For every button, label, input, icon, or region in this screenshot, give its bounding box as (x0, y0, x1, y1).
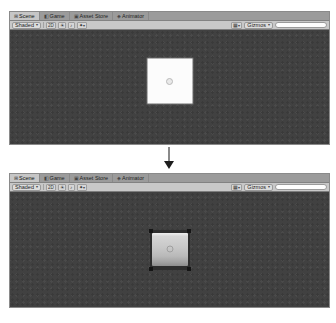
scene-search-input[interactable] (275, 184, 327, 190)
audio-icon: ♪ (70, 185, 72, 190)
lighting-toggle-button[interactable]: ☀ (58, 184, 66, 191)
page: ⊞ Scene ◧ Game ▣ Asset Store ◈ Animator … (0, 0, 336, 323)
chevron-down-icon: ▾ (36, 22, 38, 28)
lighting-icon: ☀ (60, 23, 64, 28)
gizmos-dropdown[interactable]: Gizmos ▾ (244, 22, 273, 29)
effects-dropdown[interactable]: ✦▾ (77, 184, 87, 191)
chevron-down-icon: ▾ (238, 23, 240, 28)
chevron-down-icon: ▾ (83, 185, 85, 190)
tab-scene[interactable]: ⊞ Scene (10, 12, 40, 20)
draw-mode-label: Shaded (15, 22, 34, 28)
tab-label: Scene (19, 175, 35, 181)
tab-label: Animator (122, 13, 144, 19)
pivot-gizmo-icon (166, 78, 173, 85)
tile-corner (187, 267, 191, 271)
tab-game[interactable]: ◧ Game (40, 174, 70, 182)
tab-asset-store[interactable]: ▣ Asset Store (70, 174, 113, 182)
scene-toolbar: Shaded ▾ 2D ☀ ♪ ✦▾ ▦▾ Gizmos ▾ (10, 183, 329, 192)
asset-store-tab-icon: ▣ (74, 175, 79, 181)
transition-arrow-icon (163, 147, 175, 171)
gizmos-dropdown[interactable]: Gizmos ▾ (244, 184, 273, 191)
scene-viewport-after[interactable] (10, 192, 329, 307)
tab-animator[interactable]: ◈ Animator (113, 12, 149, 20)
tab-label: Game (50, 13, 65, 19)
chevron-down-icon: ▾ (268, 22, 270, 28)
animator-tab-icon: ◈ (117, 13, 121, 19)
unity-scene-panel-after: ⊞ Scene ◧ Game ▣ Asset Store ◈ Animator … (9, 173, 330, 308)
tile-corner (149, 267, 153, 271)
pivot-gizmo-icon (166, 246, 173, 253)
tab-label: Animator (122, 175, 144, 181)
lighting-icon: ☀ (60, 185, 64, 190)
draw-mode-dropdown[interactable]: Shaded ▾ (12, 22, 41, 29)
animator-tab-icon: ◈ (117, 175, 121, 181)
chevron-down-icon: ▾ (268, 184, 270, 190)
arrow-stem (168, 147, 170, 162)
tab-bar: ⊞ Scene ◧ Game ▣ Asset Store ◈ Animator (10, 12, 329, 21)
draw-mode-label: Shaded (15, 184, 34, 190)
tab-label: Game (50, 175, 65, 181)
arrow-head (164, 161, 174, 169)
2d-toggle-button[interactable]: 2D (46, 22, 56, 29)
gray-tile-sprite[interactable] (150, 230, 190, 270)
lighting-toggle-button[interactable]: ☀ (58, 22, 66, 29)
grid-options-button[interactable]: ▦▾ (231, 22, 242, 29)
unity-scene-panel-before: ⊞ Scene ◧ Game ▣ Asset Store ◈ Animator … (9, 11, 330, 145)
audio-icon: ♪ (70, 23, 72, 28)
game-tab-icon: ◧ (44, 175, 49, 181)
divider (43, 22, 44, 28)
scene-search-input[interactable] (275, 22, 327, 28)
effects-dropdown[interactable]: ✦▾ (77, 22, 87, 29)
tile-face (152, 233, 188, 266)
tab-asset-store[interactable]: ▣ Asset Store (70, 12, 113, 20)
gizmos-label: Gizmos (247, 184, 266, 190)
audio-toggle-button[interactable]: ♪ (68, 184, 75, 191)
chevron-down-icon: ▾ (36, 184, 38, 190)
scene-tab-icon: ⊞ (14, 13, 18, 19)
scene-toolbar: Shaded ▾ 2D ☀ ♪ ✦▾ ▦▾ Gizmos ▾ (10, 21, 329, 30)
tab-label: Scene (19, 13, 35, 19)
tab-animator[interactable]: ◈ Animator (113, 174, 149, 182)
2d-toggle-button[interactable]: 2D (46, 184, 56, 191)
tab-game[interactable]: ◧ Game (40, 12, 70, 20)
scene-viewport-before[interactable] (10, 30, 329, 144)
game-tab-icon: ◧ (44, 13, 49, 19)
tab-label: Asset Store (80, 175, 108, 181)
scene-tab-icon: ⊞ (14, 175, 18, 181)
tab-bar: ⊞ Scene ◧ Game ▣ Asset Store ◈ Animator (10, 174, 329, 183)
chevron-down-icon: ▾ (83, 23, 85, 28)
divider (43, 184, 44, 190)
white-square-sprite[interactable] (147, 59, 192, 104)
grid-options-button[interactable]: ▦▾ (231, 184, 242, 191)
tab-label: Asset Store (80, 13, 108, 19)
gizmos-label: Gizmos (247, 22, 266, 28)
asset-store-tab-icon: ▣ (74, 13, 79, 19)
draw-mode-dropdown[interactable]: Shaded ▾ (12, 184, 41, 191)
chevron-down-icon: ▾ (238, 185, 240, 190)
tab-scene[interactable]: ⊞ Scene (10, 174, 40, 182)
audio-toggle-button[interactable]: ♪ (68, 22, 75, 29)
